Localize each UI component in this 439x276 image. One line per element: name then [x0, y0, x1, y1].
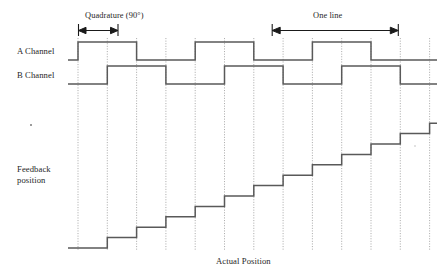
b-channel-waveform	[68, 66, 437, 84]
feedback-position-staircase	[68, 123, 437, 248]
encoder-timing-diagram: Quadrature (90°) One line A Channel B Ch…	[0, 0, 439, 276]
quadrature-dimension-arrow	[79, 24, 119, 36]
a-channel-waveform	[68, 42, 437, 60]
waveform-canvas	[0, 0, 439, 276]
one-line-dimension-arrow	[272, 24, 398, 36]
